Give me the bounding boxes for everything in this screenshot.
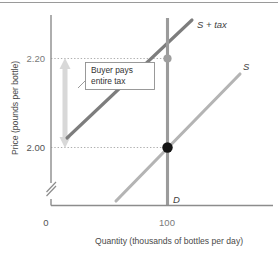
y-tick-label-220: 2.20 [27,53,46,64]
axis-break-marks [47,182,57,199]
label-demand: D [173,194,180,205]
marker-equilibrium-no-tax [162,142,172,152]
y-tick-label-200: 2.00 [27,142,46,153]
annotation-box: Buyer pays entire tax [86,63,155,90]
label-supply: S [243,61,250,72]
annotation-line-2: entire tax [91,76,126,86]
marker-equilibrium-with-tax [163,54,171,62]
label-supply-plus-tax: S + tax [197,19,228,30]
supply-demand-tax-chart: 2.20 2.00 0 100 Price (pounds per bottle… [0,0,278,253]
annotation-line-1: Buyer pays [91,65,133,75]
x-axis-title: Quantity (thousands of bottles per day) [95,236,243,246]
x-tick-label-100: 100 [159,217,175,228]
chart-background [0,0,278,253]
y-axis-title: Price (pounds per bottle) [10,61,20,155]
x-tick-label-0: 0 [43,217,48,228]
chart-figure: 2.20 2.00 0 100 Price (pounds per bottle… [0,0,278,253]
